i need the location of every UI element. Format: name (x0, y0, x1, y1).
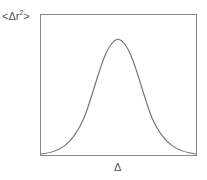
x-axis-label: Δ (114, 161, 121, 173)
plot-frame (41, 15, 197, 156)
bell-curve (41, 39, 196, 154)
y-axis-label: <Δr2> (2, 9, 30, 22)
plot-area (0, 0, 207, 180)
